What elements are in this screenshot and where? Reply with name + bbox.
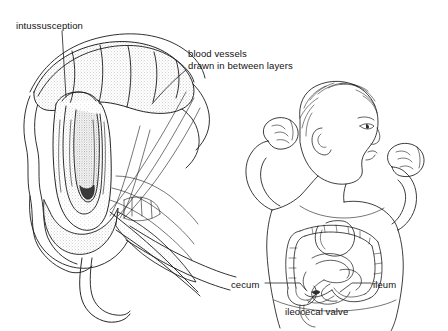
label-intussusception: intussusception xyxy=(16,20,83,32)
label-ileocecal-valve: ileocecal valve xyxy=(285,306,348,318)
label-blood-vessels-line2: drawn in between layers xyxy=(188,60,293,71)
label-ileum: ileum xyxy=(373,279,396,291)
label-blood-vessels-line1: blood vessels xyxy=(188,48,247,59)
label-cecum: cecum xyxy=(231,279,259,291)
intussusceptum-layer-3 xyxy=(74,110,100,202)
label-blood-vessels: blood vesselsdrawn in between layers xyxy=(188,48,293,71)
